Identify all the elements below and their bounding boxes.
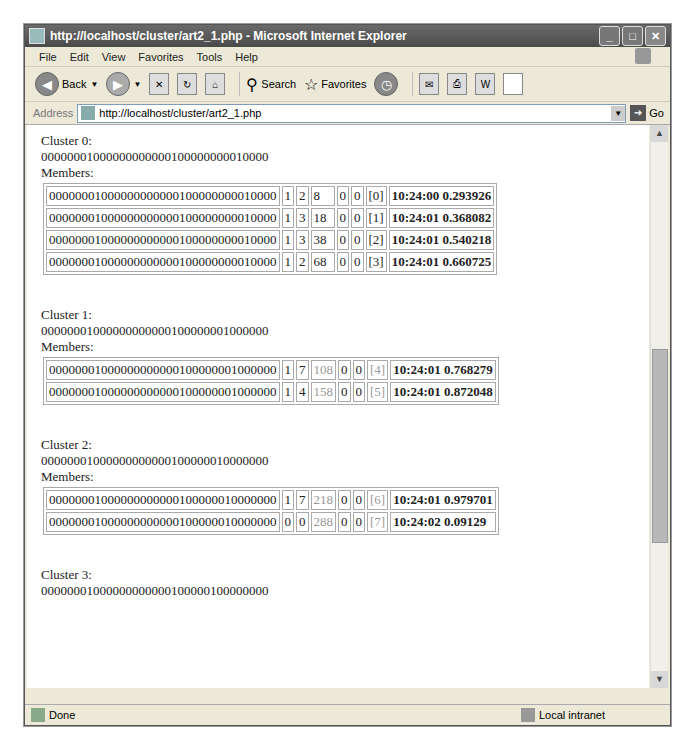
cluster-heading: Cluster 0: (41, 133, 649, 149)
value-cell: 0 (337, 230, 350, 250)
table-row: 00000001000000000000100000000010000 1 3 … (46, 208, 494, 228)
index-cell: [3] (366, 252, 387, 272)
value-cell: 7 (296, 490, 309, 510)
refresh-icon[interactable]: ↻ (177, 73, 197, 95)
value-cell: 108 (311, 360, 337, 380)
title-bar: http://localhost/cluster/art2_1.php - Mi… (25, 25, 670, 47)
value-cell: 0 (337, 252, 350, 272)
maximize-button[interactable]: □ (622, 26, 643, 46)
minimize-button[interactable]: _ (599, 26, 620, 46)
address-label: Address (33, 107, 73, 119)
time-cell: 10:24:01 0.660725 (389, 252, 495, 272)
index-cell: [1] (366, 208, 387, 228)
members-label: Members: (41, 339, 649, 355)
close-button[interactable]: ✕ (645, 26, 666, 46)
members-label: Members: (41, 469, 649, 485)
menu-view[interactable]: View (102, 51, 126, 63)
value-cell: 0 (351, 208, 364, 228)
forward-button[interactable]: ▶ ▼ (106, 72, 141, 96)
search-button[interactable]: ⚲ Search (246, 75, 296, 94)
index-cell: [4] (367, 360, 388, 380)
index-cell: [2] (366, 230, 387, 250)
pattern-cell: 00000001000000000000100000010000000 (46, 512, 280, 532)
word-edit-icon[interactable]: W (475, 73, 495, 95)
value-cell: 18 (311, 208, 335, 228)
value-cell: 0 (351, 252, 364, 272)
scroll-up-icon[interactable]: ▲ (651, 125, 668, 142)
value-cell: 1 (282, 208, 295, 228)
mail-icon[interactable]: ✉ (419, 73, 439, 95)
forward-arrow-icon: ▶ (106, 72, 130, 96)
table-row: 00000001000000000000100000010000000 0 0 … (46, 512, 496, 532)
toolbar-separator (239, 72, 240, 96)
value-cell: 0 (351, 186, 364, 206)
browser-window: http://localhost/cluster/art2_1.php - Mi… (24, 24, 671, 726)
value-cell: 1 (282, 490, 295, 510)
value-cell: 0 (337, 186, 350, 206)
favorites-button[interactable]: ☆ Favorites (304, 75, 366, 94)
value-cell: 2 (296, 186, 309, 206)
value-cell: 1 (282, 186, 295, 206)
pattern-cell: 00000001000000000000100000000010000 (46, 252, 280, 272)
windows-logo-icon (635, 48, 651, 64)
stop-icon[interactable]: ✕ (149, 73, 169, 95)
vertical-scrollbar[interactable]: ▲ ▼ (650, 125, 668, 688)
status-bar: Done Local intranet (25, 704, 670, 725)
index-cell: [7] (367, 512, 388, 532)
menu-help[interactable]: Help (235, 51, 258, 63)
value-cell: 1 (282, 252, 295, 272)
search-label: Search (261, 78, 296, 90)
security-zone: Local intranet (515, 708, 605, 722)
value-cell: 0 (353, 382, 366, 402)
value-cell: 218 (311, 490, 337, 510)
discuss-icon[interactable] (503, 73, 523, 95)
cluster-0: Cluster 0: 00000001000000000000100000000… (41, 133, 649, 275)
cluster-heading: Cluster 1: (41, 307, 649, 323)
menu-file[interactable]: File (39, 51, 57, 63)
toolbar: ◀ Back ▼ ▶ ▼ ✕ ↻ ⌂ ⚲ Search ☆ Favorites … (25, 67, 670, 102)
value-cell: 68 (311, 252, 335, 272)
time-cell: 10:24:00 0.293926 (389, 186, 495, 206)
table-row: 00000001000000000000100000010000000 1 7 … (46, 490, 496, 510)
go-button[interactable]: ➔ Go (630, 105, 664, 121)
forward-dropdown-icon[interactable]: ▼ (133, 80, 141, 89)
table-row: 00000001000000000000100000000010000 1 3 … (46, 230, 494, 250)
address-input[interactable]: http://localhost/cluster/art2_1.php ▼ (77, 104, 626, 123)
address-url[interactable]: http://localhost/cluster/art2_1.php (99, 107, 611, 119)
time-cell: 10:24:01 0.768279 (390, 360, 496, 380)
cluster-3: Cluster 3: 00000001000000000000100000100… (41, 567, 649, 599)
value-cell: 0 (353, 360, 366, 380)
cluster-prototype: 00000001000000000000100000001000000 (41, 323, 649, 339)
value-cell: 0 (353, 490, 366, 510)
cluster-2: Cluster 2: 00000001000000000000100000010… (41, 437, 649, 535)
back-dropdown-icon[interactable]: ▼ (90, 80, 98, 89)
menu-tools[interactable]: Tools (197, 51, 223, 63)
time-cell: 10:24:02 0.09129 (390, 512, 496, 532)
table-row: 00000001000000000000100000001000000 1 7 … (46, 360, 496, 380)
pattern-cell: 00000001000000000000100000000010000 (46, 230, 280, 250)
value-cell: 1 (282, 360, 295, 380)
menu-favorites[interactable]: Favorites (138, 51, 183, 63)
status-text: Done (49, 709, 75, 721)
cluster-heading: Cluster 3: (41, 567, 649, 583)
time-cell: 10:24:01 0.979701 (390, 490, 496, 510)
value-cell: 0 (338, 512, 351, 532)
scroll-down-icon[interactable]: ▼ (651, 671, 668, 688)
scroll-thumb[interactable] (652, 349, 668, 543)
pattern-cell: 00000001000000000000100000001000000 (46, 382, 280, 402)
value-cell: 3 (296, 208, 309, 228)
cluster-prototype: 00000001000000000000100000010000000 (41, 453, 649, 469)
cluster-heading: Cluster 2: (41, 437, 649, 453)
value-cell: 0 (338, 382, 351, 402)
value-cell: 1 (282, 382, 295, 402)
print-icon[interactable]: ⎙ (447, 73, 467, 95)
home-icon[interactable]: ⌂ (205, 73, 225, 95)
star-icon: ☆ (304, 75, 318, 94)
index-cell: [6] (367, 490, 388, 510)
time-cell: 10:24:01 0.368082 (389, 208, 495, 228)
back-button[interactable]: ◀ Back ▼ (35, 72, 98, 96)
history-icon[interactable]: ◷ (374, 72, 398, 96)
menu-edit[interactable]: Edit (70, 51, 89, 63)
cluster-1: Cluster 1: 00000001000000000000100000001… (41, 307, 649, 405)
address-dropdown-icon[interactable]: ▼ (611, 106, 625, 121)
